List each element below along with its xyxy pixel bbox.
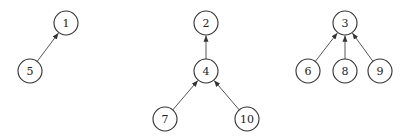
edge-9-to-3 (352, 33, 373, 61)
node-10: 10 (235, 107, 259, 131)
edge-10-to-4 (214, 81, 239, 110)
node-label: 7 (162, 113, 169, 126)
node-label: 3 (342, 17, 349, 30)
node-label: 4 (203, 65, 210, 78)
node-label: 9 (377, 65, 384, 78)
edge-7-to-4 (173, 81, 198, 110)
node-label: 8 (342, 65, 349, 78)
node-label: 2 (203, 17, 210, 30)
tree-diagram: 15247103689 (0, 0, 413, 139)
node-2: 2 (194, 11, 218, 35)
node-3: 3 (333, 11, 357, 35)
node-label: 6 (305, 65, 312, 78)
node-5: 5 (18, 59, 42, 83)
node-label: 10 (240, 113, 254, 126)
node-8: 8 (333, 59, 357, 83)
node-1: 1 (54, 11, 78, 35)
edge-5-to-1 (37, 33, 58, 61)
node-4: 4 (194, 59, 218, 83)
node-7: 7 (153, 107, 177, 131)
node-6: 6 (296, 59, 320, 83)
nodes-layer: 15247103689 (18, 11, 392, 131)
node-9: 9 (368, 59, 392, 83)
edge-6-to-3 (315, 33, 337, 62)
node-label: 1 (63, 17, 70, 30)
node-label: 5 (27, 65, 34, 78)
